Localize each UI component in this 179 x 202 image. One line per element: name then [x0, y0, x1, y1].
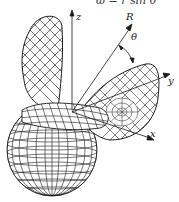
theta-label: θ	[131, 32, 137, 42]
upper-left-lobe	[0, 0, 80, 120]
x-axis-label: x	[150, 129, 156, 139]
y-axis-label: y	[168, 76, 174, 86]
wireframe-diagram: ω = r sin θ z R θ y x	[0, 0, 179, 202]
z-axis-label: z	[76, 12, 81, 22]
R-axis-label: R	[126, 12, 134, 22]
wireframe-surface-plot	[0, 0, 179, 202]
inner-cone	[106, 98, 138, 126]
equation-label: ω = r sin θ	[96, 0, 156, 7]
